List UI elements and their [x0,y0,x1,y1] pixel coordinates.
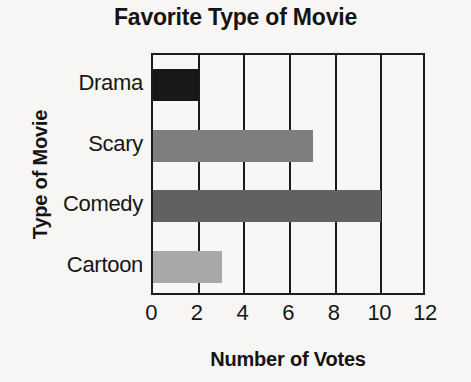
x-tick-label-0: 0 [129,300,173,326]
x-tick-label-2: 2 [175,300,219,326]
y-tick-label-comedy: Comedy [63,189,143,219]
chart-title: Favorite Type of Movie [0,4,471,31]
x-axis-tick-labels: 024681012 [151,300,425,330]
gridline [289,55,291,293]
bar-cartoon [153,251,222,283]
x-tick-label-10: 10 [357,300,401,326]
gridline [380,55,382,293]
chart-figure: Favorite Type of Movie Type of Movie Dra… [0,0,471,382]
y-tick-label-drama: Drama [78,68,143,98]
y-axis-tick-labels: DramaScaryComedyCartoon [40,53,147,295]
y-tick-label-scary: Scary [88,129,143,159]
bar-drama [153,69,199,101]
bar-scary [153,130,313,162]
gridline [243,55,245,293]
x-tick-label-12: 12 [403,300,447,326]
x-axis-title: Number of Votes [151,348,425,371]
x-tick-label-4: 4 [220,300,264,326]
bar-comedy [153,190,381,222]
plot-area [151,53,425,295]
y-tick-label-cartoon: Cartoon [67,250,143,280]
x-tick-label-8: 8 [312,300,356,326]
gridline [335,55,337,293]
x-tick-label-6: 6 [266,300,310,326]
